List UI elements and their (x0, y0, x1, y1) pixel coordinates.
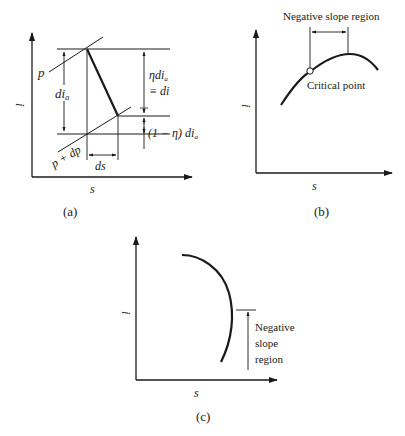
expansion-process-line (87, 49, 118, 116)
x-axis-label-c: s (194, 386, 199, 400)
y-axis-label-b: i (239, 104, 254, 108)
performance-curve-c (182, 255, 232, 362)
isobar-p-dp-label: p + dp (48, 142, 84, 171)
figure-canvas: i s dia ηdia ≡ di (1 − η) dia ds p p + d… (0, 0, 405, 436)
y-axis-label-a: i (13, 103, 28, 107)
x-axis-label-a: s (90, 182, 95, 196)
isobar-p-label: p (37, 65, 45, 80)
caption-a: (a) (63, 204, 77, 219)
negative-label-c: Negative (255, 321, 295, 333)
panel-a: i s dia ηdia ≡ di (1 − η) dia ds p p + d… (13, 33, 198, 219)
isobar-p-dp (58, 107, 131, 152)
ds-label: ds (95, 159, 106, 173)
panel-c: i s Negative slope region (c) (119, 237, 295, 424)
caption-c: (c) (196, 409, 210, 424)
caption-b: (b) (314, 204, 329, 219)
x-axis-label-b: s (312, 179, 317, 193)
critical-point-label: Critical point (307, 79, 365, 91)
region-label-c: region (255, 353, 284, 365)
eta-dia-label: ηdia (149, 68, 168, 83)
panel-b: i s Negative slope region Critical point… (239, 10, 392, 219)
negative-slope-label-b: Negative slope region (283, 10, 380, 22)
slope-label-c: slope (255, 337, 278, 349)
one-minus-eta-label: (1 − η) dia (148, 126, 198, 141)
equiv-di-label: ≡ di (149, 84, 169, 98)
y-axis-label-c: i (119, 311, 134, 315)
critical-point-marker (307, 68, 313, 74)
